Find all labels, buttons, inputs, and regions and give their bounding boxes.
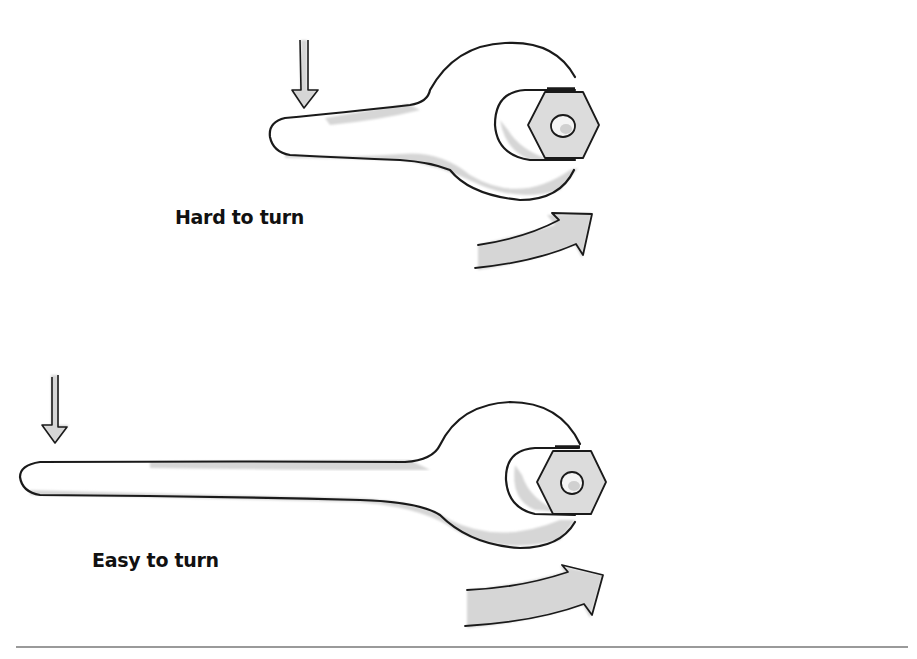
easy-to-turn-label: Easy to turn [92, 549, 219, 571]
rotation-arrow-icon [475, 213, 592, 270]
nut-icon [537, 451, 606, 514]
down-arrow-icon [42, 375, 69, 443]
divider-line [16, 646, 908, 648]
hard-to-turn-label: Hard to turn [175, 206, 304, 228]
wrench-icon [20, 402, 580, 548]
rotation-arrow-icon [465, 565, 603, 628]
long-wrench-panel [20, 375, 606, 628]
nut-icon [528, 92, 599, 158]
down-arrow-icon [291, 40, 318, 108]
short-wrench-panel [270, 40, 599, 270]
